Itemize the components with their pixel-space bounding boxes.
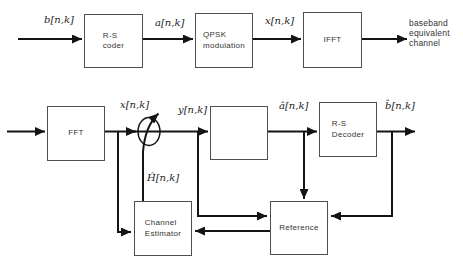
baseband-channel-annotation: baseband equivalent channel <box>409 18 450 48</box>
block-reference-label: Reference <box>279 223 319 233</box>
block-reference: Reference <box>270 201 328 255</box>
block-rs-decoder: R-S Decoder <box>319 102 377 157</box>
block-channel-estimator: Channel Estimator <box>134 201 192 256</box>
signal-label-a-hat: â[n,k] <box>279 100 308 112</box>
wire-x-to-estimator <box>118 132 131 233</box>
signal-label-b: b[n,k] <box>44 14 74 26</box>
signal-label-x-top: x[n,k] <box>265 15 294 27</box>
block-ifft: IFFT <box>303 12 362 68</box>
block-rs-coder-label: R-S coder <box>103 31 125 52</box>
block-qpsk-label: QPSK modulation <box>203 30 245 51</box>
block-diagram: R-S coder QPSK modulation IFFT FFT R-S D… <box>0 0 463 271</box>
signal-label-y: y[n,k] <box>178 104 207 116</box>
signal-label-a: a[n,k] <box>155 17 184 29</box>
block-fft: FFT <box>47 106 105 161</box>
block-ifft-label: IFFT <box>323 35 341 45</box>
signal-label-h-hat: Ĥ[n,k] <box>147 172 179 184</box>
block-channel-estimator-label: Channel Estimator <box>145 218 182 239</box>
block-fft-label: FFT <box>68 128 84 138</box>
block-rs-decoder-label: R-S Decoder <box>332 119 364 140</box>
block-slicer <box>210 106 268 160</box>
block-qpsk-modulation: QPSK modulation <box>195 13 253 68</box>
signal-label-b-hat: b̂[n,k] <box>385 100 415 112</box>
signal-label-x: x[n,k] <box>120 99 149 111</box>
block-rs-coder: R-S coder <box>84 14 143 68</box>
wire-hhat-to-multiplier <box>143 114 159 202</box>
